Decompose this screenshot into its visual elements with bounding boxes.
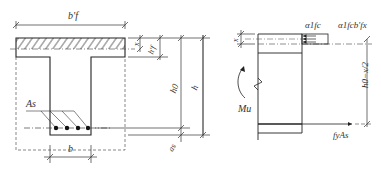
compression-arrows — [303, 36, 316, 42]
concrete-stress-label: α1fc — [305, 20, 321, 30]
concrete-force-label: α1fcb'fx — [338, 20, 367, 30]
stress-depth-label: x — [231, 38, 240, 43]
moment-label: Mu — [237, 103, 251, 114]
flange-width-label: b'f — [68, 10, 79, 21]
compression-depth-label: x — [132, 42, 141, 47]
rebar — [86, 126, 90, 130]
flange-thickness-label: h'f — [147, 43, 159, 55]
compression-zone-hatch — [16, 38, 125, 49]
cover-label: as — [167, 142, 178, 153]
steel-area-label: As — [25, 98, 36, 109]
moment-arc — [238, 68, 245, 98]
rebar — [76, 126, 80, 130]
t-beam-diagram: b'f As — [0, 0, 381, 173]
diagram-canvas: b'f As — [0, 0, 381, 173]
steel-force-label: fyAs — [333, 130, 349, 140]
web-width-label: b — [68, 143, 73, 154]
rebar — [54, 126, 58, 130]
right-figure: x α1fc α1fcb'fx h0−x/2 fyAs Mu — [203, 20, 372, 140]
flange-width-dimension — [13, 21, 128, 29]
lever-arm-label: h0−x/2 — [360, 61, 370, 88]
effective-depth-label: h0 — [168, 82, 181, 94]
total-height-label: h — [189, 83, 200, 91]
steel-area-leader — [26, 111, 88, 128]
rebar — [65, 126, 69, 130]
left-figure: b'f As — [10, 10, 210, 163]
